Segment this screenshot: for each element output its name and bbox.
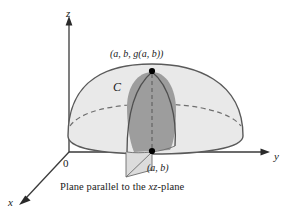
origin-label: 0	[63, 158, 69, 169]
caption-prefix: Plane parallel to the	[60, 181, 149, 192]
cutting-plane-group	[127, 72, 176, 153]
figure-container: z y x 0 (a, b, g(a, b)) (a, b) C Plane p…	[0, 0, 288, 214]
y-axis-arrowhead	[261, 149, 271, 156]
figure-caption: Plane parallel to the xz-plane	[60, 182, 184, 193]
z-axis-label: z	[66, 8, 70, 19]
x-axis-arrowhead	[19, 195, 31, 205]
y-axis-label: y	[274, 151, 279, 162]
caption-suffix: -plane	[157, 181, 184, 192]
base-point-label: (a, b)	[147, 163, 169, 173]
curve-c-label: C	[113, 81, 121, 93]
base-point-marker	[149, 148, 155, 154]
apex-point-label: (a, b, g(a, b))	[110, 49, 163, 59]
x-axis-label: x	[8, 197, 13, 208]
apex-point-marker	[149, 68, 155, 74]
